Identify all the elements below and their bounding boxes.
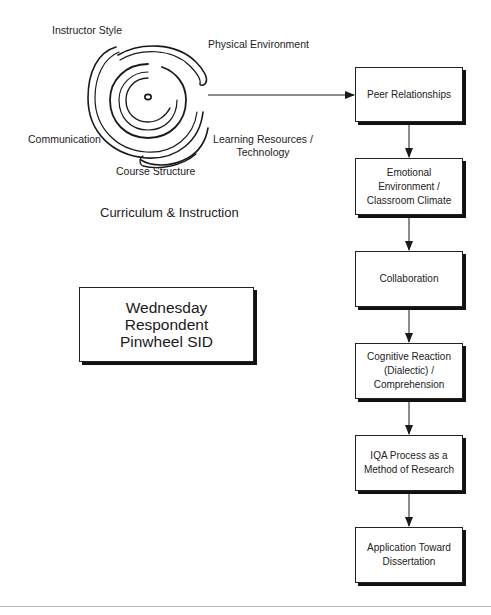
label-physical-environment: Physical Environment <box>208 38 309 51</box>
flow-box-cognitive-reaction: Cognitive Reaction (Dialectic) / Compreh… <box>355 343 463 399</box>
flow-box-collaboration: Collaboration <box>355 251 463 307</box>
label-communication: Communication <box>28 133 101 146</box>
curriculum-instruction-heading: Curriculum & Instruction <box>100 205 239 220</box>
label-learning-resources: Learning Resources / Technology <box>205 133 321 159</box>
flow-box-label: Emotional Environment / Classroom Climat… <box>367 166 451 208</box>
page-divider <box>0 606 491 607</box>
flow-box-label: Collaboration <box>380 272 439 286</box>
flow-box-application-toward-dissertation: Application Toward Dissertation <box>355 527 463 583</box>
title-box-text: Wednesday Respondent Pinwheel SID <box>120 299 213 350</box>
flow-box-label: Cognitive Reaction (Dialectic) / Compreh… <box>367 350 451 392</box>
flow-box-emotional-environment: Emotional Environment / Classroom Climat… <box>355 158 463 215</box>
flow-box-label: Peer Relationships <box>367 88 451 102</box>
flow-box-iqa-process: IQA Process as a Method of Research <box>355 435 463 491</box>
flow-box-peer-relationships: Peer Relationships <box>355 67 463 122</box>
label-course-structure: Course Structure <box>116 165 195 178</box>
flow-box-label: IQA Process as a Method of Research <box>364 449 454 477</box>
label-instructor-style: Instructor Style <box>52 24 122 37</box>
flow-box-label: Application Toward Dissertation <box>367 541 451 569</box>
title-box: Wednesday Respondent Pinwheel SID <box>79 287 254 362</box>
pinwheel-spiral-icon <box>88 46 208 168</box>
